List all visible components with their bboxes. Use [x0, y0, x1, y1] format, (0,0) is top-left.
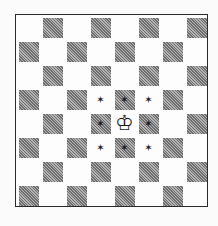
square-c3 [65, 136, 89, 160]
square-h8 [185, 16, 209, 40]
square-g8 [161, 16, 185, 40]
square-f6 [137, 64, 161, 88]
square-e3: ✶ [113, 136, 137, 160]
square-f2 [137, 160, 161, 184]
square-a7 [17, 40, 41, 64]
square-h5 [185, 88, 209, 112]
square-b1 [41, 184, 65, 208]
square-h2 [185, 160, 209, 184]
square-a5 [17, 88, 41, 112]
square-a6 [17, 64, 41, 88]
white-king-icon: ♔ [115, 113, 134, 134]
square-c7 [65, 40, 89, 64]
square-g6 [161, 64, 185, 88]
square-h3 [185, 136, 209, 160]
square-a3 [17, 136, 41, 160]
square-g4 [161, 112, 185, 136]
square-f8 [137, 16, 161, 40]
square-e1 [113, 184, 137, 208]
square-h6 [185, 64, 209, 88]
star-marker-icon: ✶ [120, 95, 128, 105]
square-g3 [161, 136, 185, 160]
star-marker-icon: ✶ [120, 143, 128, 153]
square-a1 [17, 184, 41, 208]
square-g1 [161, 184, 185, 208]
square-c2 [65, 160, 89, 184]
square-c6 [65, 64, 89, 88]
square-h4 [185, 112, 209, 136]
square-g7 [161, 40, 185, 64]
square-d5: ✶ [89, 88, 113, 112]
square-b2 [41, 160, 65, 184]
square-e7 [113, 40, 137, 64]
square-f5: ✶ [137, 88, 161, 112]
square-f3: ✶ [137, 136, 161, 160]
square-d7 [89, 40, 113, 64]
square-c8 [65, 16, 89, 40]
square-b3 [41, 136, 65, 160]
square-c5 [65, 88, 89, 112]
square-d8 [89, 16, 113, 40]
square-b4 [41, 112, 65, 136]
square-e6 [113, 64, 137, 88]
square-e2 [113, 160, 137, 184]
square-c4 [65, 112, 89, 136]
square-d1 [89, 184, 113, 208]
star-marker-icon: ✶ [96, 119, 104, 129]
square-c1 [65, 184, 89, 208]
square-h1 [185, 184, 209, 208]
square-d6 [89, 64, 113, 88]
chessboard: ✶✶✶✶♔✶✶✶✶ [15, 14, 208, 207]
square-e4: ♔ [113, 112, 137, 136]
square-e5: ✶ [113, 88, 137, 112]
star-marker-icon: ✶ [144, 95, 152, 105]
square-a4 [17, 112, 41, 136]
square-d2 [89, 160, 113, 184]
square-b5 [41, 88, 65, 112]
star-marker-icon: ✶ [144, 143, 152, 153]
square-f1 [137, 184, 161, 208]
square-b7 [41, 40, 65, 64]
square-g5 [161, 88, 185, 112]
star-marker-icon: ✶ [96, 95, 104, 105]
square-b6 [41, 64, 65, 88]
square-h7 [185, 40, 209, 64]
square-f7 [137, 40, 161, 64]
star-marker-icon: ✶ [96, 143, 104, 153]
square-e8 [113, 16, 137, 40]
square-f4: ✶ [137, 112, 161, 136]
star-marker-icon: ✶ [144, 119, 152, 129]
square-d4: ✶ [89, 112, 113, 136]
square-g2 [161, 160, 185, 184]
square-b8 [41, 16, 65, 40]
square-a2 [17, 160, 41, 184]
square-d3: ✶ [89, 136, 113, 160]
square-a8 [17, 16, 41, 40]
